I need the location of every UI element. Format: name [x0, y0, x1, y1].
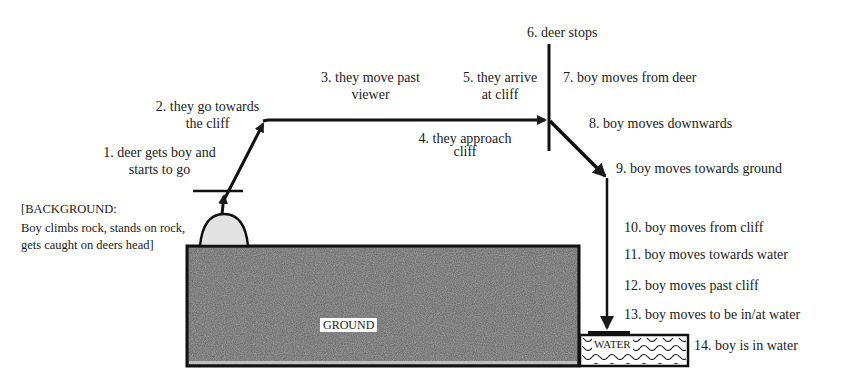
ground-block [187, 246, 579, 366]
step-2-label: 2. they go towards the cliff [145, 98, 270, 132]
step-13-label: 13. boy moves to be in/at water [624, 306, 800, 323]
background-note-line: gets caught on deers head] [21, 237, 154, 253]
step-4-label: 4. they approach cliff [406, 130, 524, 160]
step-10-label: 10. boy moves from cliff [624, 219, 763, 236]
step-3-label: 3. they move past viewer [308, 69, 433, 103]
step-1-label: 1. deer gets boy and starts to go [92, 144, 227, 178]
step-7-label: 7. boy moves from deer [563, 69, 696, 86]
step-5-label: 5. they arrive at cliff [455, 69, 545, 103]
step-12-label: 12. boy moves past cliff [624, 277, 759, 294]
water-label: WATER [592, 337, 633, 351]
rock-shape [200, 214, 248, 246]
step-6-label: 6. deer stops [527, 24, 597, 41]
background-note-title: [BACKGROUND: [21, 201, 117, 217]
step-14-label: 14. boy is in water [694, 337, 798, 354]
step-9-label: 9. boy moves towards ground [616, 160, 782, 177]
step-11-label: 11. boy moves towards water [624, 246, 788, 263]
step-8-label: 8. boy moves downwards [589, 115, 732, 132]
ground-label: GROUND [320, 318, 377, 332]
background-note-line: Boy climbs rock, stands on rock, [21, 220, 185, 236]
